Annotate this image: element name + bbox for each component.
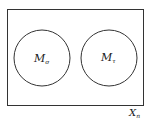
outer-set-rectangle	[8, 10, 144, 106]
label-m-tau: Mτ	[100, 51, 116, 64]
venn-diagram: Mσ Mτ Xn	[0, 0, 154, 120]
label-x-n: Xn	[128, 107, 140, 119]
label-m-sigma: Mσ	[33, 52, 50, 65]
